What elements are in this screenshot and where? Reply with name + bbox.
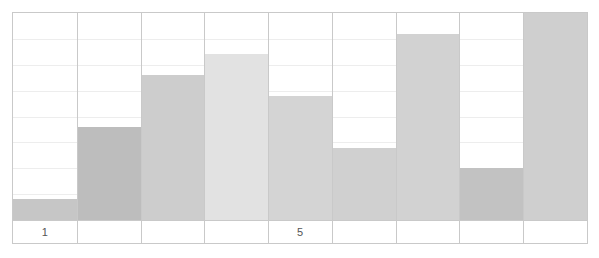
- bar[interactable]: [268, 96, 332, 220]
- x-tick-label-5: 5: [268, 221, 332, 243]
- x-tick-label-9: [523, 221, 587, 243]
- x-tick-label-3: [141, 221, 205, 243]
- bar[interactable]: [459, 168, 523, 220]
- bar-chart: 15: [0, 0, 599, 258]
- x-tick-label-6: [332, 221, 396, 243]
- bar[interactable]: [204, 54, 268, 220]
- bar[interactable]: [141, 75, 205, 220]
- gridline-horizontal: [13, 91, 587, 92]
- plot-area: [13, 13, 587, 220]
- chart-frame: 15: [12, 12, 588, 244]
- x-tick-label-4: [204, 221, 268, 243]
- x-tick-label-7: [396, 221, 460, 243]
- gridline-horizontal: [13, 65, 587, 66]
- bar[interactable]: [396, 34, 460, 220]
- x-tick-label-8: [459, 221, 523, 243]
- x-tick-label-1: 1: [13, 221, 77, 243]
- gridline-horizontal: [13, 39, 587, 40]
- x-axis-tick-labels: 15: [13, 221, 587, 243]
- bar[interactable]: [13, 199, 77, 220]
- bar[interactable]: [77, 127, 141, 220]
- bar[interactable]: [523, 13, 587, 220]
- x-tick-label-2: [77, 221, 141, 243]
- bar[interactable]: [332, 148, 396, 220]
